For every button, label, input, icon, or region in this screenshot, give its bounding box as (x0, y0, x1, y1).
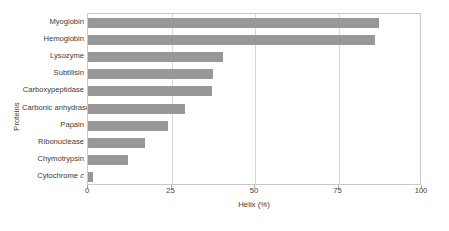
bar (88, 35, 375, 45)
bar (88, 104, 185, 114)
y-axis-tick-label: Carboxypeptidase (22, 86, 84, 94)
y-axis-tick-labels: MyoglobinHemoglobinLysozymeSubtilisinCar… (22, 13, 84, 185)
plot-area (87, 13, 421, 185)
bar (88, 155, 128, 165)
x-axis-tick-labels: 0255075100 (87, 186, 421, 198)
x-axis-title-text: Helix (%) (238, 200, 270, 209)
y-axis-tick-label: Subtilisin (22, 69, 84, 77)
x-axis-tick-mark (254, 185, 255, 188)
y-axis-title: Proteins (9, 86, 23, 146)
y-axis-tick-label: Papain (22, 121, 84, 129)
x-axis-title: Helix (%) (87, 200, 421, 209)
bar (88, 86, 212, 96)
y-axis-tick-label: Chymotrypsin (22, 155, 84, 163)
y-axis-tick-label: Hemoglobin (22, 35, 84, 43)
y-axis-tick-label: Ribonuclease (22, 138, 84, 146)
y-axis-tick-label: Lysozyme (22, 52, 84, 60)
bar (88, 138, 145, 148)
bar (88, 52, 223, 62)
x-axis-tick-mark (87, 185, 88, 188)
x-axis-tick-mark (338, 185, 339, 188)
y-axis-tick-label: Cytochrome c (22, 172, 84, 180)
helix-percent-bar-chart: Proteins MyoglobinHemoglobinLysozymeSubt… (0, 0, 449, 231)
bar (88, 121, 168, 131)
x-axis-tick-mark (421, 185, 422, 188)
x-axis-tick-mark (171, 185, 172, 188)
y-axis-title-text: Proteins (12, 102, 21, 130)
bar (88, 18, 379, 28)
y-axis-tick-label: Carbonic anhydrase (22, 104, 84, 112)
plot-inner (88, 14, 420, 184)
bar (88, 172, 93, 182)
bar (88, 69, 213, 79)
y-axis-tick-label: Myoglobin (22, 18, 84, 26)
